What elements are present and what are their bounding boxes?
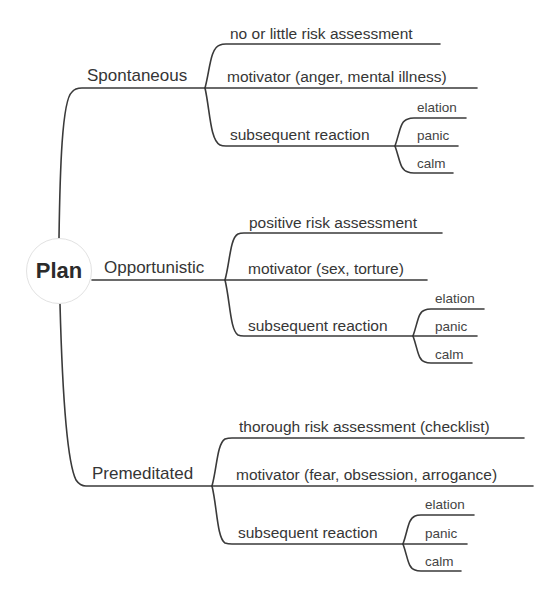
root-node-plan[interactable]: Plan xyxy=(26,238,92,304)
opp-reaction-elation[interactable]: elation xyxy=(435,292,475,306)
spont-reaction-panic[interactable]: panic xyxy=(417,129,449,143)
opp-reaction-calm[interactable]: calm xyxy=(435,348,464,362)
opp-risk-assessment[interactable]: positive risk assessment xyxy=(249,215,417,231)
pre-reaction-calm[interactable]: calm xyxy=(425,555,454,569)
opp-motivator[interactable]: motivator (sex, torture) xyxy=(248,261,404,277)
pre-subsequent-reaction[interactable]: subsequent reaction xyxy=(238,525,378,541)
opp-reaction-panic[interactable]: panic xyxy=(435,320,467,334)
spont-reaction-elation[interactable]: elation xyxy=(417,101,457,115)
spont-subsequent-reaction[interactable]: subsequent reaction xyxy=(230,127,370,143)
pre-motivator[interactable]: motivator (fear, obsession, arrogance) xyxy=(236,467,497,483)
pre-reaction-elation[interactable]: elation xyxy=(425,498,465,512)
pre-reaction-panic[interactable]: panic xyxy=(425,527,457,541)
opp-subsequent-reaction[interactable]: subsequent reaction xyxy=(248,318,388,334)
edge-root-premeditated xyxy=(60,304,212,486)
branch-opportunistic[interactable]: Opportunistic xyxy=(104,259,204,276)
root-label: Plan xyxy=(36,258,82,284)
edge-root-spontaneous xyxy=(59,88,205,238)
spont-motivator[interactable]: motivator (anger, mental illness) xyxy=(227,69,447,85)
branch-spontaneous[interactable]: Spontaneous xyxy=(87,67,187,84)
branch-premeditated[interactable]: Premeditated xyxy=(92,465,193,482)
spont-risk-assessment[interactable]: no or little risk assessment xyxy=(230,26,413,42)
pre-risk-assessment[interactable]: thorough risk assessment (checklist) xyxy=(239,419,490,435)
spont-reaction-calm[interactable]: calm xyxy=(417,157,446,171)
